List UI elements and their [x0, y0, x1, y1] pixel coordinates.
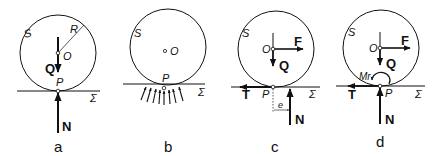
panel-caption-c: c [271, 138, 279, 155]
weight-label: Q [45, 61, 55, 76]
contact-label: P [262, 88, 270, 100]
contact-label: P [385, 87, 393, 99]
moment-label: Mr [359, 71, 371, 82]
contact-label: P [56, 76, 64, 88]
force-label: F [294, 34, 302, 49]
body-label: S [348, 26, 356, 38]
plane-label: Σ [197, 86, 205, 98]
center-point [163, 49, 166, 52]
panel-caption-a: a [54, 138, 63, 155]
weight-label: Q [386, 56, 396, 71]
plane-label: Σ [89, 92, 97, 104]
force-label: F [401, 33, 409, 48]
center-point [271, 47, 275, 51]
pressure-arrows-icon [141, 87, 183, 105]
offset-label: e [278, 100, 283, 110]
radius-label: R [70, 23, 78, 35]
normal-label: N [295, 112, 304, 127]
normal-label: N [62, 119, 71, 134]
panel-caption-d: d [376, 133, 384, 150]
body-label: S [242, 27, 250, 39]
panel-d: S O F Q Mr T P Σ N d [336, 10, 425, 150]
body-label: S [134, 27, 142, 39]
friction-label: T [348, 87, 356, 102]
rolling-moment-arc-icon [372, 72, 390, 84]
panel-a: S R O Q P Σ N a [17, 15, 100, 155]
center-label: O [369, 42, 378, 54]
contact-label: P [162, 72, 170, 84]
panel-caption-b: b [164, 138, 172, 155]
plane-label: Σ [414, 88, 422, 100]
center-point [56, 51, 60, 55]
contact-point [271, 85, 275, 89]
panel-c: S O F Q T P Σ e N c [231, 11, 320, 155]
contact-point [162, 86, 166, 90]
contact-point [378, 84, 382, 88]
center-label: O [262, 43, 271, 55]
plane-label: Σ [308, 88, 316, 100]
panel-b: S O P Σ b [123, 9, 206, 155]
rolling-resistance-figure: S R O Q P Σ N a S O P Σ b [0, 0, 438, 156]
center-point [378, 46, 382, 50]
body-label: S [22, 26, 33, 40]
normal-label: N [385, 112, 394, 127]
friction-label: T [242, 87, 250, 102]
weight-label: Q [279, 58, 289, 73]
center-label: O [63, 50, 72, 62]
contact-point [56, 89, 60, 93]
center-label: O [170, 45, 179, 57]
